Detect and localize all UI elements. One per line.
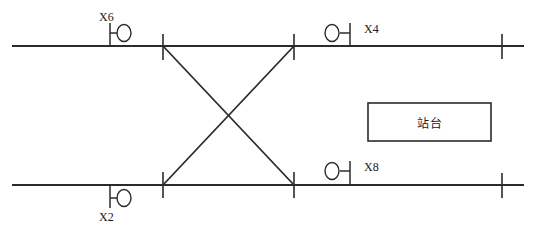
signal-x4-icon — [325, 23, 350, 46]
signal-x4-label: X4 — [364, 22, 379, 37]
signal-x6-icon — [110, 23, 131, 46]
signal-x8-icon — [325, 161, 350, 185]
signal-x2-icon — [110, 185, 131, 208]
railway-track-diagram: X6 X4 X8 X2 站台 — [0, 0, 537, 240]
signal-x8-label: X8 — [364, 160, 379, 175]
signal-x2-label: X2 — [99, 210, 114, 225]
platform-label: 站台 — [368, 103, 491, 141]
signal-x6-label: X6 — [99, 10, 114, 25]
